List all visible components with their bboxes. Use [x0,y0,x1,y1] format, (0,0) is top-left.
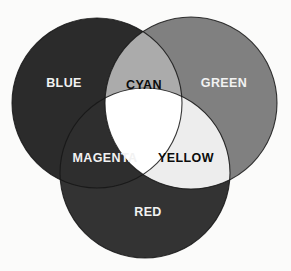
label-magenta: MAGENTA [72,151,137,165]
label-yellow: YELLOW [158,151,214,165]
label-cyan: CYAN [126,78,162,92]
venn-diagram-svg: BLUE GREEN RED CYAN MAGENTA YELLOW [0,0,291,271]
venn-diagram-stage: BLUE GREEN RED CYAN MAGENTA YELLOW [0,0,291,271]
label-green: GREEN [201,76,247,90]
label-blue: BLUE [46,76,82,90]
label-red: RED [134,205,162,219]
